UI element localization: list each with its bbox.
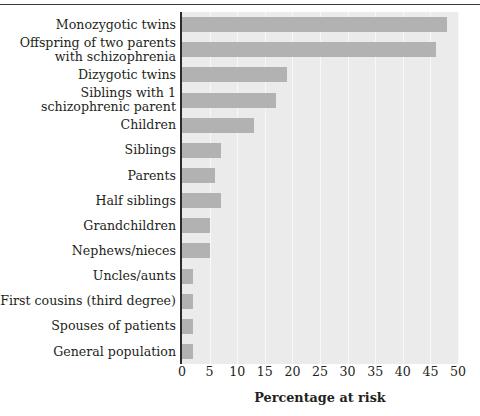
gridline bbox=[458, 12, 459, 364]
y-axis-spine bbox=[180, 12, 182, 364]
bar bbox=[182, 17, 447, 32]
x-tick-label: 50 bbox=[438, 364, 478, 380]
gridline bbox=[292, 12, 293, 364]
category-axis-labels: Monozygotic twinsOffspring of two parent… bbox=[0, 12, 176, 364]
bar bbox=[182, 319, 193, 334]
bar bbox=[182, 143, 221, 158]
category-label: Monozygotic twins bbox=[0, 18, 176, 32]
bar bbox=[182, 269, 193, 284]
gridline bbox=[237, 12, 238, 364]
bar-chart-figure: Monozygotic twinsOffspring of two parent… bbox=[0, 0, 480, 416]
bar bbox=[182, 243, 210, 258]
bar bbox=[182, 193, 221, 208]
category-label: Siblings with 1 schizophrenic parent bbox=[0, 86, 176, 113]
category-label: Half siblings bbox=[0, 194, 176, 208]
gridline bbox=[265, 12, 266, 364]
x-axis-tick-labels: 05101520253035404550 bbox=[0, 364, 480, 386]
bar bbox=[182, 42, 436, 57]
category-label: First cousins (third degree) bbox=[0, 294, 176, 308]
bar bbox=[182, 118, 254, 133]
bar bbox=[182, 218, 210, 233]
category-label: Nephews/nieces bbox=[0, 244, 176, 258]
category-label: Dizygotic twins bbox=[0, 68, 176, 82]
category-label: Uncles/aunts bbox=[0, 269, 176, 283]
bar bbox=[182, 93, 276, 108]
gridline bbox=[375, 12, 376, 364]
top-divider-rule bbox=[0, 4, 480, 5]
category-label: Spouses of patients bbox=[0, 319, 176, 333]
gridline bbox=[348, 12, 349, 364]
gridline bbox=[210, 12, 211, 364]
category-label: Parents bbox=[0, 169, 176, 183]
bar bbox=[182, 344, 193, 359]
gridline bbox=[430, 12, 431, 364]
gridline bbox=[320, 12, 321, 364]
bar bbox=[182, 168, 215, 183]
category-label: General population bbox=[0, 345, 176, 359]
bar bbox=[182, 294, 193, 309]
category-label: Grandchildren bbox=[0, 219, 176, 233]
category-label: Offspring of two parents with schizophre… bbox=[0, 36, 176, 63]
category-label: Siblings bbox=[0, 143, 176, 157]
x-axis-title: Percentage at risk bbox=[182, 390, 458, 405]
chart-plot-area: Monozygotic twinsOffspring of two parent… bbox=[0, 12, 480, 364]
plot-panel-background bbox=[182, 12, 458, 364]
gridline bbox=[403, 12, 404, 364]
category-label: Children bbox=[0, 118, 176, 132]
bar bbox=[182, 67, 287, 82]
